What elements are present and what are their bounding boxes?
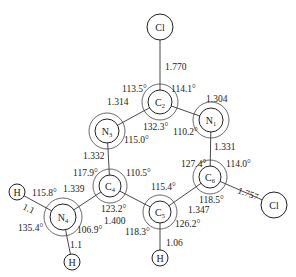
bond-angle-label: 117.9°	[73, 168, 98, 178]
bond-angle-label: 114.1°	[171, 84, 196, 94]
bond-angle-label: 123.2°	[101, 204, 126, 214]
atom-C5: C5	[149, 201, 171, 223]
atom-subscript: 1	[213, 120, 216, 127]
bond-length-label: 1.304	[206, 94, 228, 104]
bond-angle-label: 110.2°	[173, 127, 198, 137]
bond-length-label: 1.332	[83, 151, 105, 161]
bond-length-label: 1.400	[104, 216, 126, 226]
bond-angle-label: 135.4°	[18, 223, 43, 233]
atom-H_bottom: H	[64, 254, 80, 270]
bond-length-label: 1.347	[188, 205, 210, 215]
bond-length-label: 1.06	[166, 238, 183, 248]
atom-C4: C4	[99, 175, 121, 197]
atom-N4: N4	[50, 204, 76, 230]
bond-angle-label: 115.8°	[32, 188, 57, 198]
atom-symbol: H	[68, 257, 75, 268]
bond-angle-label: 114.0°	[226, 159, 251, 169]
bond-length-label: 1.339	[63, 184, 85, 194]
atom-C2: C2	[148, 90, 172, 114]
atom-Cl_top: Cl	[147, 14, 173, 40]
bond-angle-label: 132.3°	[143, 122, 168, 132]
atom-subscript: 2	[162, 102, 165, 109]
atom-symbol: H	[13, 187, 20, 198]
atom-symbol: Cl	[155, 22, 165, 33]
atom-C6: C6	[199, 166, 221, 188]
bond-angle-label: 118.5°	[199, 195, 224, 205]
atom-H_left: H	[9, 184, 25, 200]
bond-angle-label: 118.3°	[125, 227, 150, 237]
atom-H_C5: H	[152, 250, 168, 266]
atom-symbol: H	[156, 253, 163, 264]
atom-Cl_right: Cl	[261, 192, 287, 218]
bond-angle-label: 110.5°	[126, 168, 151, 178]
bond-angle-label: 113.5°	[122, 84, 147, 94]
bond-length-label: 1.757	[236, 185, 260, 202]
bond-angle-label: 115.0°	[124, 135, 149, 145]
bond-angle-label: 126.2°	[175, 219, 200, 229]
bond-length-label: 1.1	[70, 240, 82, 250]
atom-N3: N3	[95, 119, 119, 143]
atom-symbol: Cl	[269, 200, 279, 211]
atom-subscript: 5	[162, 212, 165, 219]
bond-length-label: 1.314	[107, 97, 129, 107]
atom-subscript: 3	[109, 131, 112, 138]
bond-length-label: 1.770	[165, 62, 187, 72]
atom-N1: N1	[199, 108, 223, 132]
bond-length-label: 1.331	[214, 142, 236, 152]
bond-angle-label: 106.9°	[77, 225, 102, 235]
molecule-diagram: ClC2N1N3C4C6C5N4ClHHH 1.7701.3041.3141.3…	[0, 0, 296, 277]
bond-angle-label: 127.4°	[181, 159, 206, 169]
bond-length-label: 1.1	[21, 202, 36, 216]
bond-angle-label: 115.4°	[151, 182, 176, 192]
